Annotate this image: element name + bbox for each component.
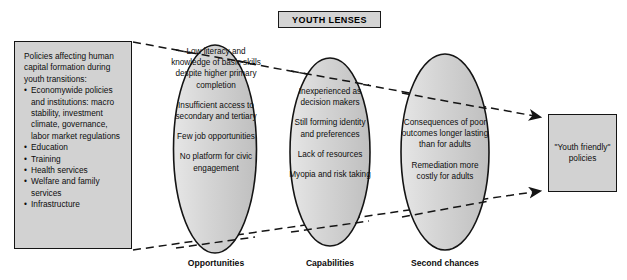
policy-item: Training <box>24 154 124 165</box>
lens-text-capabilities: Inexperienced as decision makers Still f… <box>287 86 373 180</box>
lens-point: Consequences of poor outcomes longer las… <box>400 117 490 151</box>
policy-item: Health services <box>24 165 124 176</box>
diagram-title-text: YOUTH LENSES <box>292 15 367 25</box>
lens-point: No platform for civic engagement <box>169 151 263 173</box>
youth-lenses-diagram: YOUTH LENSES Policies affecting human ca… <box>0 0 627 280</box>
policy-box: Policies affecting human capital formati… <box>14 41 132 249</box>
lens-text-opportunities: Low literacy and knowledge of basic skil… <box>169 46 263 174</box>
lens-caption-opportunities: Opportunities <box>166 258 266 268</box>
policy-item: Welfare and family services <box>24 176 124 199</box>
policy-box-intro: Policies affecting human capital formati… <box>24 51 124 85</box>
lens-point: Still forming identity and preferences <box>287 117 373 139</box>
outcome-box: "Youth friendly" policies <box>548 114 617 192</box>
outcome-box-text: "Youth friendly" policies <box>549 142 616 164</box>
lens-point: Inexperienced as decision makers <box>287 86 373 108</box>
policy-item: Infrastructure <box>24 199 124 210</box>
lens-point: Remediation more costly for adults <box>400 160 490 182</box>
policy-item: Education <box>24 142 124 153</box>
lens-caption-second-chances: Second chances <box>393 258 497 268</box>
lens-point: Low literacy and knowledge of basic skil… <box>169 46 263 91</box>
lens-point: Few job opportunities <box>169 131 263 142</box>
lens-point: Lack of resources <box>287 149 373 160</box>
lens-text-second-chances: Consequences of poor outcomes longer las… <box>400 117 490 182</box>
policy-box-list: Economywide policies and institutions: m… <box>24 85 124 210</box>
policy-item: Economywide policies and institutions: m… <box>24 85 124 142</box>
lens-caption-capabilities: Capabilities <box>283 258 377 268</box>
lens-point: Insufficient access to secondary and ter… <box>169 100 263 122</box>
diagram-title-chip: YOUTH LENSES <box>278 11 381 28</box>
lens-point: Myopia and risk taking <box>287 169 373 180</box>
